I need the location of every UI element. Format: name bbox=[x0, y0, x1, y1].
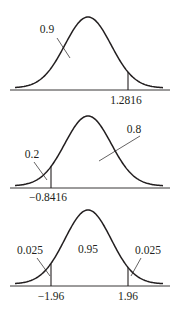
area-probability-label: 0.025 bbox=[17, 244, 43, 256]
normal-curve-panel-2: −0.84160.20.8 bbox=[10, 116, 170, 203]
normal-curve-panel-1: 1.28160.9 bbox=[10, 17, 170, 106]
bell-curve bbox=[15, 17, 163, 88]
normal-distribution-figure: 1.28160.9−0.84160.20.8−1.961.960.0250.95… bbox=[0, 0, 184, 311]
area-probability-label: 0.2 bbox=[25, 148, 40, 160]
leader-line bbox=[131, 258, 141, 276]
area-probability-label: 0.025 bbox=[135, 244, 161, 256]
area-probability-label: 0.8 bbox=[127, 123, 142, 135]
critical-value-label: −0.8416 bbox=[29, 191, 67, 203]
area-probability-label: 0.95 bbox=[78, 243, 98, 255]
critical-value-label: 1.2816 bbox=[110, 94, 142, 106]
normal-curve-panel-3: −1.961.960.0250.950.025 bbox=[10, 210, 170, 302]
critical-value-label: 1.96 bbox=[118, 290, 138, 302]
area-probability-label: 0.9 bbox=[40, 23, 55, 35]
critical-value-label: −1.96 bbox=[38, 290, 65, 302]
